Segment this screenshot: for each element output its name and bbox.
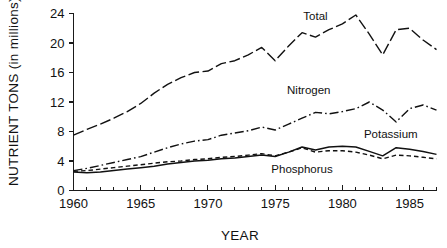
series-annotation-phosphorus: Phosphorus bbox=[271, 163, 333, 175]
x-tick-label: 1985 bbox=[395, 196, 424, 211]
x-axis-ticks bbox=[74, 185, 437, 191]
nutrient-tons-line-chart: 04812162024 196019651970197519801985 Tot… bbox=[0, 0, 447, 248]
axes-group bbox=[74, 14, 437, 191]
y-tick-label: 20 bbox=[50, 36, 64, 51]
series-annotation-total: Total bbox=[303, 10, 327, 22]
series-line-total bbox=[74, 15, 437, 135]
y-tick-label: 16 bbox=[50, 65, 64, 80]
y-axis-title: NUTRIENT TONS (in millions) bbox=[6, 0, 21, 186]
series-annotation-potassium: Potassium bbox=[364, 128, 418, 140]
chart-canvas: 04812162024 196019651970197519801985 Tot… bbox=[0, 0, 447, 248]
series-annotation-nitrogen: Nitrogen bbox=[287, 84, 330, 96]
y-tick-label: 4 bbox=[57, 154, 64, 169]
x-tick-label: 1970 bbox=[193, 196, 222, 211]
data-series-group bbox=[74, 15, 437, 173]
x-tick-label: 1965 bbox=[126, 196, 155, 211]
y-tick-label: 24 bbox=[50, 6, 64, 21]
y-axis-ticks bbox=[69, 14, 74, 191]
y-tick-label: 12 bbox=[50, 95, 64, 110]
x-tick-label: 1980 bbox=[328, 196, 357, 211]
x-tick-label: 1975 bbox=[261, 196, 290, 211]
x-tick-label: 1960 bbox=[59, 196, 88, 211]
y-tick-label: 8 bbox=[57, 124, 64, 139]
y-axis-tick-labels: 04812162024 bbox=[50, 6, 64, 198]
x-axis-tick-labels: 196019651970197519801985 bbox=[59, 196, 424, 211]
x-axis-title: YEAR bbox=[221, 228, 259, 243]
